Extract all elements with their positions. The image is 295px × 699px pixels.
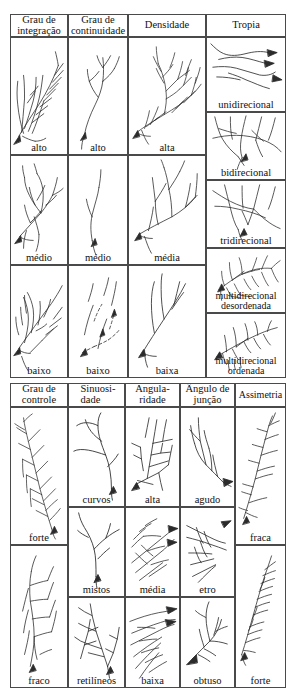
cell-controle-fraco: fraco — [10, 545, 68, 688]
cell-continuidade-medio: médio — [68, 155, 128, 265]
sketch-angularidade-baixa — [126, 598, 179, 687]
label-densidade-media: média — [129, 253, 205, 265]
cell-sinuosidade-curvos: curvos — [68, 407, 125, 507]
cell-tropia-unidirecional: unidirecional — [206, 37, 286, 112]
sketch-integracao-alto — [11, 38, 67, 154]
label-continuidade-alto: alto — [69, 143, 127, 155]
sketch-juncao-agudo — [181, 408, 234, 506]
label-integracao-baixo: baixo — [11, 366, 67, 378]
sketch-densidade-baixa — [129, 266, 205, 377]
cell-assimetria-fraca: fraca — [235, 407, 286, 545]
header-line-1: Grau de — [17, 15, 61, 26]
label-angularidade-media: média — [126, 585, 179, 597]
label-integracao-alto: alto — [11, 143, 67, 155]
cell-juncao-obtuso: obtuso — [180, 597, 235, 688]
cell-sinuosidade-mistos: mistos — [68, 507, 125, 597]
label-line-2: ordenada — [228, 365, 265, 376]
header-line-1: Assimetria — [239, 390, 282, 400]
sketch-integracao-medio — [11, 156, 67, 264]
header-grau-de-controle: Grau de controle — [10, 383, 68, 407]
label-assimetria-fraca: fraca — [236, 533, 285, 545]
header-line-1: Densidade — [145, 20, 189, 31]
sketch-assimetria-forte — [236, 546, 285, 687]
cell-angularidade-media: média — [125, 507, 180, 597]
cell-sinuosidade-retilineos: retilíneos — [68, 597, 125, 688]
cell-angularidade-alta: alta — [125, 407, 180, 507]
header-tropia: Tropia — [206, 14, 286, 37]
sketch-continuidade-medio — [69, 156, 127, 264]
header-densidade: Densidade — [128, 14, 206, 37]
label-tropia-unidirecional: unidirecional — [207, 100, 285, 112]
label-juncao-obtuso: obtuso — [181, 676, 234, 688]
sketch-controle-forte — [11, 408, 67, 544]
sketch-controle-fraco — [11, 546, 67, 687]
label-tropia-bidirecional: bidirecional — [207, 168, 285, 180]
cell-continuidade-alto: alto — [68, 37, 128, 155]
cell-juncao-etro: etro — [180, 507, 235, 597]
label-integracao-medio: médio — [11, 253, 67, 265]
header-line-1: Tropia — [232, 20, 260, 31]
header-line-2: dade — [80, 395, 115, 406]
sketch-densidade-alta — [129, 38, 205, 154]
drainage-classification-figure: Grau de integração Grau de continuidade … — [0, 0, 295, 699]
header-line-2: integração — [17, 26, 61, 37]
sketch-sinuosidade-mistos — [69, 508, 124, 596]
cell-tropia-tridirecional: tridirecional — [206, 180, 286, 248]
label-line-2: desordenada — [221, 300, 271, 311]
sketch-continuidade-alto — [69, 38, 127, 154]
cell-controle-forte: forte — [10, 407, 68, 545]
sketch-juncao-obtuso — [181, 598, 234, 687]
sketch-integracao-baixo — [11, 266, 67, 377]
header-line-2: ridade — [135, 395, 169, 406]
label-tropia-tridirecional: tridirecional — [207, 236, 285, 248]
label-sinuosidade-curvos: curvos — [69, 495, 124, 507]
cell-tropia-bidirecional: bidirecional — [206, 112, 286, 180]
label-tropia-multi-ordenada: multidirecional ordenada — [207, 356, 285, 377]
cell-tropia-multi-desordenada: multidirecional desordenada — [206, 248, 286, 313]
label-sinuosidade-mistos: mistos — [69, 585, 124, 597]
cell-angularidade-baixa: baixa — [125, 597, 180, 688]
label-angularidade-baixa: baixa — [126, 676, 179, 688]
label-angularidade-alta: alta — [126, 495, 179, 507]
cell-integracao-alto: alto — [10, 37, 68, 155]
header-angulo-de-juncao: Ângulo de junção — [180, 383, 235, 407]
header-line-1: Grau de — [71, 15, 125, 26]
sketch-sinuosidade-retilineos — [69, 598, 124, 687]
header-grau-de-integracao: Grau de integração — [10, 14, 68, 37]
header-line-2: continuidade — [71, 26, 125, 37]
sketch-continuidade-baixo — [69, 266, 127, 377]
sketch-assimetria-fraca — [236, 408, 285, 544]
label-controle-fraco: fraco — [11, 676, 67, 688]
cell-assimetria-forte: forte — [235, 545, 286, 688]
cell-integracao-medio: médio — [10, 155, 68, 265]
cell-densidade-media: média — [128, 155, 206, 265]
cell-tropia-multi-ordenada: multidirecional ordenada — [206, 313, 286, 378]
label-densidade-alta: alta — [129, 143, 205, 155]
header-sinuosidade: Sinuosi- dade — [68, 383, 125, 407]
header-angularidade: Angula- ridade — [125, 383, 180, 407]
sketch-juncao-etro — [181, 508, 234, 596]
header-assimetria: Assimetria — [235, 383, 286, 407]
label-tropia-multi-desordenada: multidirecional desordenada — [207, 291, 285, 312]
sketch-angularidade-alta — [126, 408, 179, 506]
label-sinuosidade-retilineos: retilíneos — [69, 676, 124, 688]
cell-densidade-baixa: baixa — [128, 265, 206, 378]
header-line-2: junção — [185, 395, 229, 406]
cell-continuidade-baixo: baixo — [68, 265, 128, 378]
sketch-densidade-media — [129, 156, 205, 264]
label-continuidade-baixo: baixo — [69, 366, 127, 378]
sketch-sinuosidade-curvos — [69, 408, 124, 506]
header-line-2: controle — [22, 395, 56, 406]
label-assimetria-forte: forte — [236, 676, 285, 688]
cell-integracao-baixo: baixo — [10, 265, 68, 378]
label-controle-forte: forte — [11, 533, 67, 545]
label-continuidade-medio: médio — [69, 253, 127, 265]
header-grau-de-continuidade: Grau de continuidade — [68, 14, 128, 37]
cell-juncao-agudo: agudo — [180, 407, 235, 507]
sketch-angularidade-media — [126, 508, 179, 596]
cell-densidade-alta: alta — [128, 37, 206, 155]
label-juncao-agudo: agudo — [181, 495, 234, 507]
label-densidade-baixa: baixa — [129, 366, 205, 378]
label-juncao-etro: etro — [181, 585, 234, 597]
